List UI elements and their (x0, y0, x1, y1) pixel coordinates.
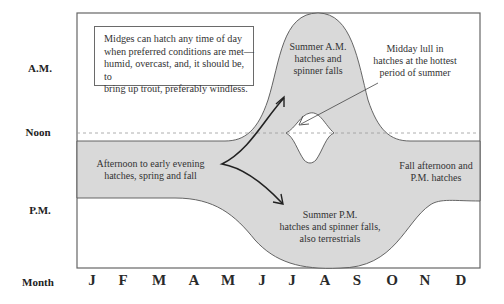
note-line: bring up trout, preferably windless. (104, 83, 254, 96)
y-label-am: A.M. (5, 62, 75, 74)
month-label: M (152, 272, 166, 289)
month-label: J (88, 272, 96, 289)
note-line: Midges can hatch any time of day (104, 33, 254, 46)
note-line: when preferred conditions are met— (104, 46, 254, 59)
label-line: hatches, spring and fall (88, 170, 213, 182)
month-label: A (320, 272, 331, 289)
label-line: hatches and spinner falls, (268, 221, 392, 233)
label-line: Summer A.M. (278, 41, 358, 53)
note-line: humid, overcast, and, it should be, to (104, 58, 254, 83)
month-label: M (221, 272, 235, 289)
label-line: P.M. hatches (393, 172, 479, 184)
month-label: J (288, 272, 296, 289)
label-line: period of summer (372, 67, 458, 79)
month-label: S (353, 272, 361, 289)
label-line: hatches and (278, 53, 358, 65)
y-label-pm: P.M. (5, 204, 75, 216)
month-label: O (386, 272, 398, 289)
month-label: N (420, 272, 431, 289)
month-label: A (189, 272, 200, 289)
label-line: hatches at the hottest (372, 55, 458, 67)
label-spring-fall: Afternoon to early evening hatches, spri… (88, 158, 213, 182)
label-line: Midday lull in (372, 43, 458, 55)
label-line: spinner falls (278, 65, 358, 77)
label-line: Summer P.M. (268, 209, 392, 221)
x-axis-title: Month (22, 276, 54, 288)
month-label: J (258, 272, 266, 289)
note-text: Midges can hatch any time of day when pr… (104, 33, 254, 96)
month-label: F (118, 272, 127, 289)
label-line: Fall afternoon and (393, 160, 479, 172)
y-label-noon: Noon (3, 126, 73, 138)
label-fall-pm: Fall afternoon and P.M. hatches (393, 160, 479, 184)
label-line: Afternoon to early evening (88, 158, 213, 170)
label-summer-am: Summer A.M. hatches and spinner falls (278, 41, 358, 78)
label-midday-lull: Midday lull in hatches at the hottest pe… (372, 43, 458, 80)
month-label: D (456, 272, 467, 289)
label-line: also terrestrials (268, 233, 392, 245)
label-summer-pm: Summer P.M. hatches and spinner falls, a… (268, 209, 392, 246)
